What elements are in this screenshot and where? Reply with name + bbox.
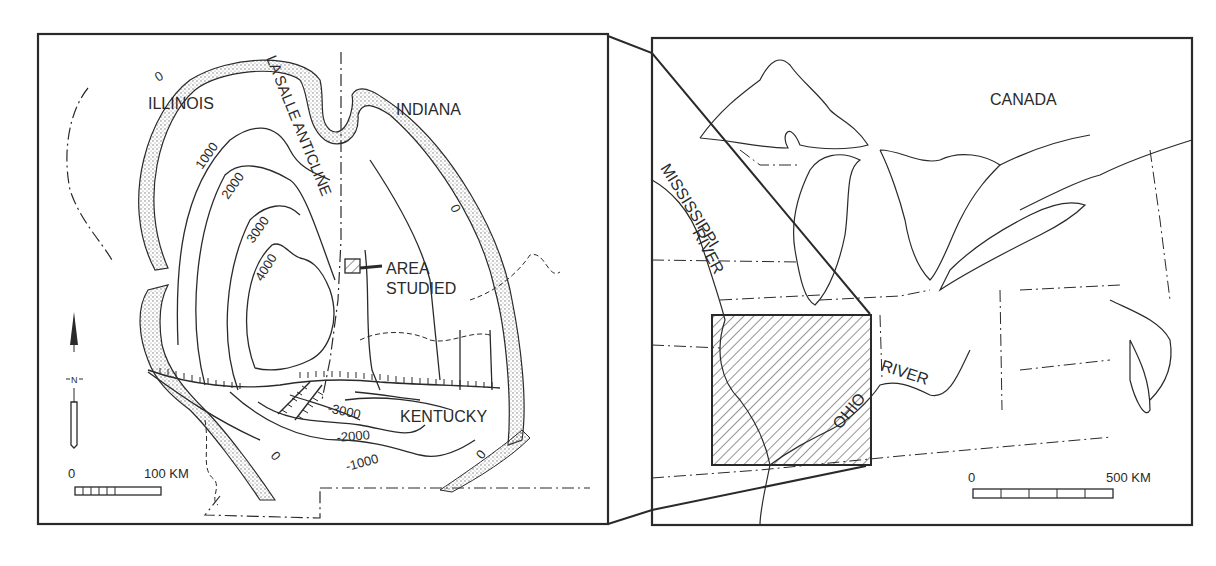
- left-map-panel: ILLINOIS INDIANA KENTUCKY LA SALLE ANTIC…: [38, 34, 608, 524]
- north-label: N: [71, 375, 78, 385]
- label-illinois: ILLINOIS: [148, 95, 214, 112]
- contour-label-0-south-left: 0: [268, 448, 284, 463]
- label-mississippi: MISSISSIPPI: [657, 161, 722, 251]
- north-arrow-icon: N: [66, 312, 83, 448]
- contour-label-4000: 4000: [252, 251, 280, 283]
- label-studied: STUDIED: [386, 280, 456, 297]
- label-mississippi-river: RIVER: [689, 225, 727, 276]
- label-canada: CANADA: [990, 91, 1057, 108]
- contour-label-3000-south: -3000: [326, 400, 362, 422]
- contour-label-0-top: 0: [152, 68, 166, 85]
- contour-label-0-right: 0: [447, 202, 464, 215]
- contour-label-2000: 2000: [218, 169, 247, 201]
- left-scale-start: 0: [68, 466, 75, 481]
- area-studied-box: [345, 259, 360, 273]
- contour-label-3000: 3000: [243, 213, 272, 245]
- right-scale-start: 0: [968, 470, 975, 485]
- left-scale-bar: 0 100 KM: [68, 466, 189, 495]
- contour-label-2000-south: -2000: [336, 427, 370, 445]
- contour-label-1000-south: -1000: [344, 451, 380, 474]
- figure-canvas: ILLINOIS INDIANA KENTUCKY LA SALLE ANTIC…: [0, 0, 1216, 566]
- right-map-panel: CANADA MISSISSIPPI RIVER OHIO RIVER 0 50…: [652, 38, 1192, 525]
- left-map-frame: [38, 34, 608, 524]
- left-scale-end: 100 KM: [144, 466, 189, 481]
- lake-shorelines: [700, 60, 1192, 305]
- area-studied-pointer: [360, 266, 382, 268]
- right-scale-bar: 0 500 KM: [968, 470, 1151, 498]
- right-scale-end: 500 KM: [1106, 470, 1151, 485]
- study-region-box: [712, 315, 871, 465]
- label-indiana: INDIANA: [396, 101, 461, 118]
- label-area: AREA: [386, 260, 430, 277]
- label-kentucky: KENTUCKY: [400, 408, 487, 425]
